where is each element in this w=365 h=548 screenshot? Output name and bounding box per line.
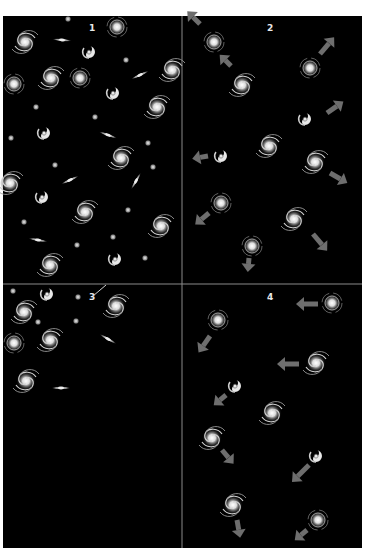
panel-1-label: 1 (89, 23, 95, 33)
panel-2-label: 2 (267, 23, 273, 33)
expanding-universe-figure: 1 2 (0, 0, 365, 548)
panel-3-label: 3 (89, 292, 95, 302)
panel-4-label: 4 (267, 292, 273, 302)
